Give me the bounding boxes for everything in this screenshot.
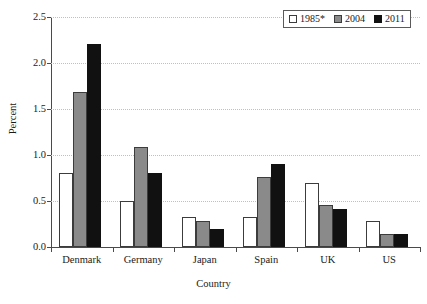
x-axis-group-label: Japan: [193, 254, 217, 265]
bar: [333, 209, 347, 247]
x-axis-group-label: UK: [320, 254, 335, 265]
x-axis-group-label: Spain: [254, 254, 278, 265]
bar: [120, 201, 134, 247]
bar: [210, 229, 224, 247]
legend-item: 2004: [334, 14, 365, 24]
x-axis-tick: [51, 248, 52, 252]
legend-label: 2011: [385, 14, 405, 24]
bar: [243, 217, 257, 247]
bar: [257, 177, 271, 247]
legend-swatch-icon: [334, 15, 342, 23]
bar: [148, 173, 162, 247]
plot-area: [51, 17, 420, 247]
legend-label: 1985*: [300, 14, 325, 24]
x-axis-title: Country: [0, 278, 427, 289]
legend-label: 2004: [345, 14, 365, 24]
bar: [87, 44, 101, 247]
bar: [380, 234, 394, 247]
legend-item: 1985*: [289, 14, 325, 24]
y-axis-tick: [47, 17, 51, 18]
x-axis-group-label: Germany: [124, 254, 163, 265]
gridline: [51, 109, 420, 110]
x-axis-tick: [420, 248, 421, 252]
y-axis-title: Percent: [7, 89, 18, 149]
y-axis-tick: [47, 109, 51, 110]
y-axis-tick-label: 2.0: [6, 58, 46, 68]
y-axis-tick-label: 0.0: [6, 242, 46, 252]
x-axis-tick: [359, 248, 360, 252]
bar: [59, 173, 73, 247]
gridline: [51, 155, 420, 156]
y-axis-tick-label: 2.5: [6, 12, 46, 22]
x-axis-group-label: Denmark: [62, 254, 101, 265]
bar: [319, 205, 333, 247]
legend-swatch-icon: [289, 15, 297, 23]
bar: [305, 183, 319, 247]
chart-legend: 1985*20042011: [283, 10, 411, 28]
x-axis-tick: [297, 248, 298, 252]
bar: [182, 217, 196, 247]
y-axis-tick-label: 0.5: [6, 196, 46, 206]
gridline: [51, 63, 420, 64]
x-axis-group-label: US: [383, 254, 396, 265]
bar: [73, 92, 87, 247]
x-axis-tick: [113, 248, 114, 252]
bar: [394, 234, 408, 247]
bar-chart: Percent 0.00.51.01.52.02.5 DenmarkGerman…: [0, 0, 427, 304]
legend-swatch-icon: [374, 15, 382, 23]
x-axis-tick: [174, 248, 175, 252]
bar: [366, 221, 380, 247]
y-axis-tick: [47, 155, 51, 156]
x-axis-tick: [236, 248, 237, 252]
y-axis-tick: [47, 201, 51, 202]
y-axis-tick-label: 1.0: [6, 150, 46, 160]
bar: [271, 164, 285, 247]
gridline: [51, 201, 420, 202]
y-axis-tick-label: 1.5: [6, 104, 46, 114]
y-axis-tick: [47, 63, 51, 64]
legend-item: 2011: [374, 14, 405, 24]
bar: [134, 147, 148, 247]
bar: [196, 221, 210, 247]
